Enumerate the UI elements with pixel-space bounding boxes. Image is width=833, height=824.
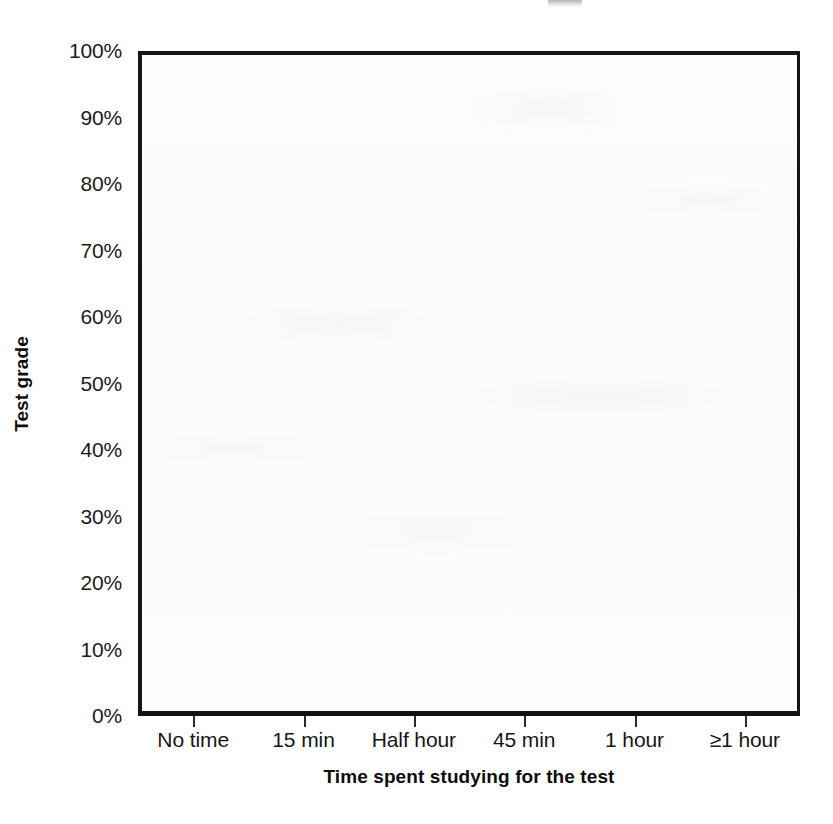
x-axis-tick-mark	[745, 716, 747, 727]
chart-figure: 100%90%80%70%60%50%40%30%20%10%0% Test g…	[0, 0, 833, 824]
plot-area-texture	[142, 55, 797, 711]
y-axis-tick-label: 30%	[81, 505, 122, 529]
y-axis-tick-label: 80%	[81, 172, 122, 196]
y-axis-tick-label: 100%	[69, 39, 122, 63]
y-axis-tick-label: 90%	[81, 106, 122, 130]
y-axis-tick-label: 0%	[92, 704, 122, 728]
y-axis-tick-label: 70%	[81, 239, 122, 263]
y-axis-tick-label: 20%	[81, 571, 122, 595]
x-axis-tick-label: No time	[157, 728, 229, 752]
y-axis-tick-label: 10%	[81, 638, 122, 662]
x-axis-tick-mark	[193, 716, 195, 727]
y-axis-title: Test grade	[4, 51, 40, 716]
x-axis-title: Time spent studying for the test	[138, 766, 800, 788]
x-axis-tick-label: 45 min	[493, 728, 555, 752]
x-axis-tick-marks	[138, 716, 800, 728]
y-axis-title-label: Test grade	[11, 336, 33, 432]
y-axis-tick-label: 40%	[81, 438, 122, 462]
y-axis-tick-label: 60%	[81, 305, 122, 329]
x-axis-tick-label: 15 min	[272, 728, 334, 752]
x-axis-tick-label: ≥1 hour	[710, 728, 780, 752]
x-axis-tick-mark	[304, 716, 306, 727]
x-axis-tick-mark	[414, 716, 416, 727]
x-axis-tick-mark	[635, 716, 637, 727]
x-axis-tick-labels: No time15 minHalf hour45 min1 hour≥1 hou…	[138, 728, 800, 758]
plot-area	[138, 51, 800, 716]
x-axis-tick-label: 1 hour	[605, 728, 664, 752]
x-axis-tick-mark	[524, 716, 526, 727]
cropped-title-remnant	[548, 0, 582, 7]
y-axis-tick-label: 50%	[81, 372, 122, 396]
x-axis-tick-label: Half hour	[372, 728, 456, 752]
